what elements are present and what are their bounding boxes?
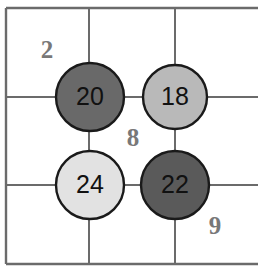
- node-label: 18: [161, 82, 189, 110]
- cell-label-bottom-right: 9: [209, 212, 222, 239]
- node-label: 20: [76, 82, 104, 110]
- grid-node-diagram: 20 18 24 22 2 8 9: [0, 0, 258, 270]
- diagram-canvas: 20 18 24 22 2 8 9: [0, 0, 258, 270]
- node-22[interactable]: 22: [141, 151, 209, 219]
- node-label: 22: [161, 170, 189, 198]
- node-label: 24: [76, 170, 104, 198]
- cell-label-center: 8: [127, 124, 140, 151]
- node-24[interactable]: 24: [56, 151, 124, 219]
- cell-label-top-left: 2: [41, 36, 54, 63]
- node-20[interactable]: 20: [56, 63, 124, 131]
- node-18[interactable]: 18: [143, 65, 207, 129]
